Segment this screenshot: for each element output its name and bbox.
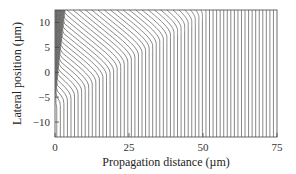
trajectory-curve (190, 10, 195, 137)
trajectory-curve (179, 10, 188, 137)
trajectory-curve (201, 10, 203, 137)
trajectory-curve (196, 10, 199, 137)
trajectory-curve (65, 10, 121, 137)
trajectory-curve (63, 10, 107, 137)
y-tick-label: −5 (38, 91, 50, 103)
y-tick-label: 0 (45, 66, 51, 78)
y-tick-label: −10 (33, 116, 51, 128)
x-tick-label: 25 (124, 141, 136, 153)
trajectory-curve (98, 10, 142, 137)
y-tick-label: 5 (45, 41, 51, 53)
x-tick-label: 75 (272, 141, 284, 153)
trajectory-curve (173, 10, 185, 137)
chart: 0255075 −10−50510 Propagation distance (… (0, 0, 296, 174)
y-tick-label: 10 (39, 16, 51, 28)
x-tick-label: 50 (198, 141, 210, 153)
trajectory-curve (64, 10, 117, 137)
plot-frame (55, 10, 277, 137)
x-tick-label: 0 (52, 141, 58, 153)
trajectory-curve (61, 10, 96, 137)
y-axis-title: Lateral position (µm) (10, 22, 24, 125)
trajectory-curves (56, 10, 274, 137)
trajectory-curve (111, 10, 150, 137)
trajectory-curve (79, 10, 131, 137)
x-axis-title: Propagation distance (µm) (102, 155, 230, 169)
